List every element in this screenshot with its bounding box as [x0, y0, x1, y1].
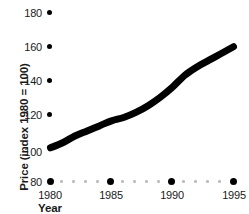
line-chart: Price (index 1980 = 100) 180 160 140 120… [0, 0, 249, 214]
x-tick-label-1980: 1980 [28, 190, 72, 201]
x-tick-label-1985: 1985 [89, 190, 133, 201]
plot-area [0, 0, 249, 214]
series-line-price-index [51, 47, 234, 148]
x-tick-label-1995: 1995 [212, 190, 249, 201]
x-axis-title: Year [23, 202, 77, 214]
x-tick-label-1990: 1990 [150, 190, 194, 201]
